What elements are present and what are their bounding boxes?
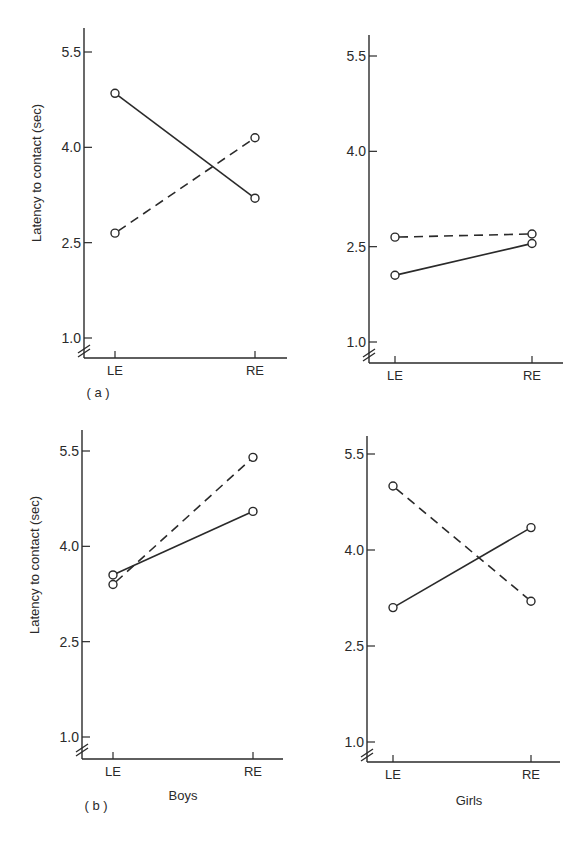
series-dashed xyxy=(389,482,535,605)
y-tick-label: 2.5 xyxy=(345,638,365,654)
y-axis-title-a: Latency to contact (sec) xyxy=(29,104,44,242)
panel-a-boys: 1.02.54.05.5LERE xyxy=(62,28,287,378)
y-tick-label: 4.0 xyxy=(345,542,365,558)
solid-line xyxy=(117,513,250,573)
x-tick-label-le: LE xyxy=(107,363,123,378)
dashed-line xyxy=(399,234,528,237)
open-circle-marker-icon xyxy=(389,604,397,612)
open-circle-marker-icon xyxy=(391,233,399,241)
open-circle-marker-icon xyxy=(109,580,117,588)
y-tick-label: 2.5 xyxy=(62,235,82,251)
x-tick-label-le: LE xyxy=(105,764,121,779)
open-circle-marker-icon xyxy=(389,482,397,490)
chart-canvas: 1.02.54.05.5LERE1.02.54.05.5LERE1.02.54.… xyxy=(0,0,584,844)
panel-b-boys: 1.02.54.05.5LERE xyxy=(60,430,283,779)
y-axis-title-b: Latency to contact (sec) xyxy=(27,496,42,634)
x-tick-label-le: LE xyxy=(385,767,401,782)
y-tick-label: 5.5 xyxy=(347,48,367,64)
open-circle-marker-icon xyxy=(249,453,257,461)
open-circle-marker-icon xyxy=(249,507,257,515)
y-tick-label: 1.0 xyxy=(62,330,82,346)
x-tick-label-re: RE xyxy=(246,363,264,378)
open-circle-marker-icon xyxy=(528,230,536,238)
panel-b-girls: 1.02.54.05.5LERE xyxy=(345,436,560,782)
y-tick-label: 4.0 xyxy=(347,143,367,159)
dashed-line xyxy=(118,140,251,231)
y-tick-label: 1.0 xyxy=(60,729,80,745)
y-tick-label: 5.5 xyxy=(62,44,82,60)
y-tick-label: 4.0 xyxy=(60,538,80,554)
open-circle-marker-icon xyxy=(111,89,119,97)
x-tick-label-re: RE xyxy=(522,767,540,782)
x-tick-label-re: RE xyxy=(523,368,541,383)
solid-line xyxy=(396,530,527,606)
dashed-line xyxy=(396,489,528,599)
series-solid xyxy=(389,524,535,612)
y-tick-label: 1.0 xyxy=(345,734,365,750)
series-solid xyxy=(391,239,536,279)
open-circle-marker-icon xyxy=(109,571,117,579)
open-circle-marker-icon xyxy=(111,229,119,237)
x-tick-label-re: RE xyxy=(244,764,262,779)
solid-line xyxy=(118,96,252,196)
y-tick-label: 2.5 xyxy=(60,634,80,650)
y-tick-label: 5.5 xyxy=(60,443,80,459)
y-tick-label: 2.5 xyxy=(347,239,367,255)
dashed-line xyxy=(116,460,250,582)
group-label-boys: Boys xyxy=(169,788,198,803)
y-tick-label: 5.5 xyxy=(345,446,365,462)
open-circle-marker-icon xyxy=(527,597,535,605)
panel-label-a: ( a ) xyxy=(86,385,109,400)
y-tick-label: 4.0 xyxy=(62,139,82,155)
open-circle-marker-icon xyxy=(528,239,536,247)
series-dashed xyxy=(109,453,257,588)
group-label-girls: Girls xyxy=(456,793,483,808)
open-circle-marker-icon xyxy=(251,194,259,202)
open-circle-marker-icon xyxy=(251,134,259,142)
open-circle-marker-icon xyxy=(527,524,535,532)
open-circle-marker-icon xyxy=(391,271,399,279)
panel-label-b: ( b ) xyxy=(84,798,107,813)
y-tick-label: 1.0 xyxy=(347,334,367,350)
x-tick-label-le: LE xyxy=(387,368,403,383)
figure: 1.02.54.05.5LERE1.02.54.05.5LERE1.02.54.… xyxy=(0,0,584,844)
series-dashed xyxy=(391,230,536,241)
panel-a-girls: 1.02.54.05.5LERE xyxy=(347,35,563,383)
solid-line xyxy=(399,244,528,274)
